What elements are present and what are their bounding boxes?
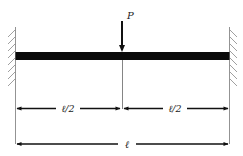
beam [16, 52, 230, 60]
left-hatching-icon [8, 30, 15, 86]
right-hatching-icon [230, 30, 237, 86]
left-fixed-support [8, 27, 16, 144]
beam-diagram: P ℓ/2 ℓ/2 ℓ [0, 0, 243, 156]
load-label: P [126, 10, 134, 21]
dimension-left-half-label: ℓ/2 [61, 103, 74, 114]
dimension-total-label: ℓ [125, 139, 129, 150]
dimension-right-half-label: ℓ/2 [168, 103, 181, 114]
load-arrow-icon [119, 21, 125, 52]
right-fixed-support [230, 27, 238, 144]
